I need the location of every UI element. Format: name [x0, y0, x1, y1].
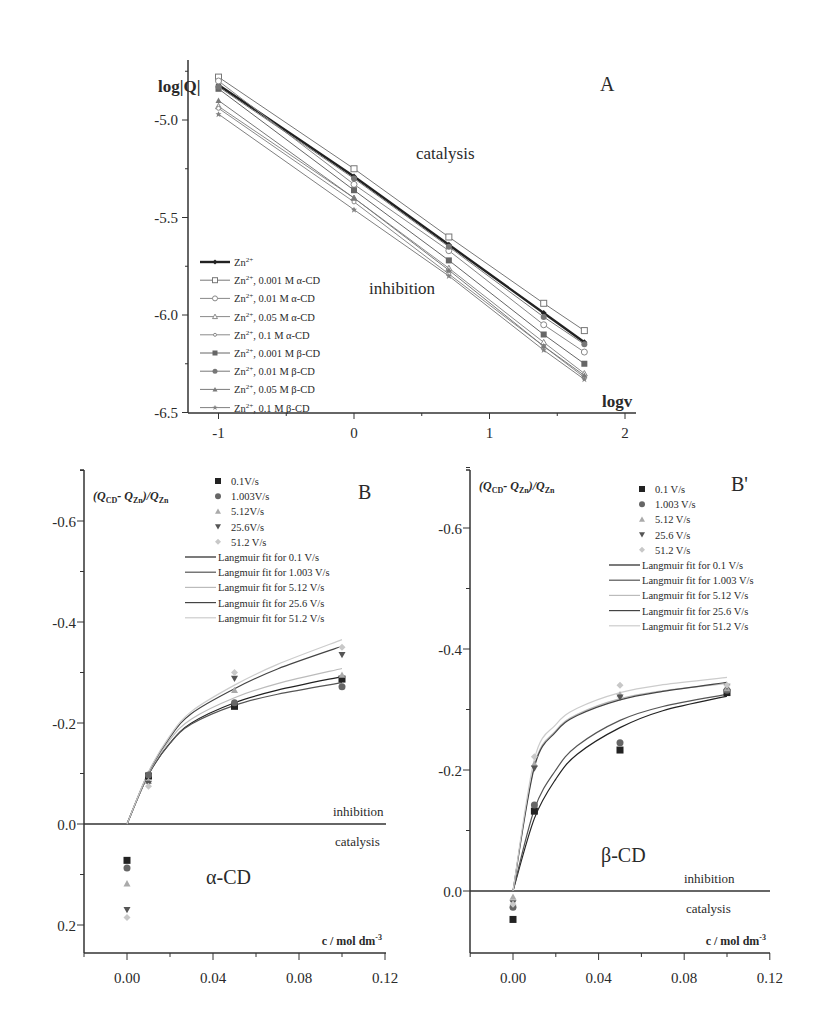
annotation-inhibition: inhibition — [684, 871, 735, 886]
chart-b-alpha-cd: -0.6-0.4-0.20.00.20.000.040.080.120.1V/s… — [52, 470, 398, 986]
panel-label: B' — [731, 473, 748, 495]
triangle-up-marker-icon — [510, 894, 517, 900]
legend-label: 0.1 V/s — [655, 484, 685, 495]
square-marker-icon — [124, 857, 131, 864]
filled-square-marker-icon — [351, 187, 357, 193]
legend-label: Langmuir fit for 1.003 V/s — [642, 575, 754, 586]
y-axis-title: (QCD- QZn)/QZn — [93, 489, 169, 505]
annotation-catalysis: catalysis — [686, 901, 731, 916]
filled-square-marker-icon — [213, 351, 218, 356]
open-square-marker-icon — [446, 234, 452, 240]
legend-label: 51.2 V/s — [231, 537, 266, 548]
open-triangle-marker-icon — [213, 314, 218, 319]
y-tick-label: -0.6 — [52, 514, 76, 530]
x-tick-label-a: 2 — [621, 425, 629, 441]
x-tick-label: 0.00 — [500, 970, 526, 986]
triangle-up-marker-icon — [124, 880, 131, 886]
legend-label: 1.003 V/s — [655, 499, 696, 510]
circle-marker-icon — [215, 493, 221, 499]
y-tick-label-a: -5.0 — [154, 112, 178, 128]
x-axis-title: c / mol dm-3 — [706, 933, 766, 948]
y-tick-label: -0.4 — [438, 642, 462, 658]
legend-label: Langmuir fit for 25.6 V/s — [218, 598, 324, 609]
langmuir-fit-curve — [127, 640, 342, 824]
legend-label-a: Zn2+, 0.1 M β-CD — [234, 402, 310, 414]
square-marker-icon — [531, 808, 538, 815]
y-tick-label: 0.0 — [443, 884, 462, 900]
legend-label-a: Zn2+, 0.05 M β-CD — [234, 383, 315, 395]
filled-square-marker-icon — [581, 361, 587, 367]
filled-triangle-marker-icon — [216, 98, 222, 103]
legend-label-a: Zn2+ — [234, 256, 253, 268]
open-circle-small-marker-icon — [214, 333, 217, 336]
annotation-catalysis: catalysis — [335, 834, 380, 849]
legend-label-a: Zn2+, 0.001 M α-CD — [234, 274, 321, 286]
triangle-down-marker-icon — [639, 532, 645, 537]
annotation-inhibition-a: inhibition — [369, 279, 436, 298]
legend-label-a: Zn2+, 0.001 M β-CD — [234, 347, 320, 359]
x-axis-title: c / mol dm-3 — [322, 933, 382, 948]
circle-marker-icon — [339, 683, 346, 690]
y-tick-label-a: -5.5 — [154, 210, 178, 226]
legend-label: Langmuir fit for 1.003 V/s — [218, 567, 330, 578]
y-tick-label-a: -6.5 — [154, 405, 178, 421]
subtitle-cd-type: α-CD — [206, 866, 251, 888]
x-tick-label: 0.00 — [114, 970, 140, 986]
legend-label: Langmuir fit for 51.2 V/s — [642, 621, 748, 632]
circle-marker-icon — [231, 699, 238, 706]
legend-label: Langmuir fit for 51.2 V/s — [218, 613, 324, 624]
triangle-down-marker-icon — [215, 524, 221, 529]
legend-label: 25.6 V/s — [655, 530, 690, 541]
triangle-up-marker-icon — [215, 508, 221, 513]
open-square-marker-icon — [541, 300, 547, 306]
filled-circle-marker-icon — [213, 369, 218, 374]
legend-label: Langmuir fit for 0.1 V/s — [218, 552, 319, 563]
open-circle-marker-icon — [216, 78, 222, 84]
square-marker-icon — [510, 916, 517, 923]
legend-label: 25.6V/s — [231, 522, 264, 533]
x-tick-label-a: -1 — [212, 425, 225, 441]
triangle-up-marker-icon — [339, 672, 346, 678]
chart-a: -5.0-5.5-6.0-6.5-1012Zn2+Zn2+, 0.001 M α… — [154, 60, 636, 441]
y-tick-label: 0.2 — [57, 918, 76, 934]
diamond-marker-icon — [617, 682, 624, 689]
panel-label: B — [358, 481, 371, 503]
x-tick-label: 0.12 — [757, 970, 783, 986]
square-marker-icon — [617, 747, 624, 754]
filled-circle-marker-icon — [581, 341, 587, 347]
circle-marker-icon — [124, 864, 131, 871]
legend-label-a: Zn2+, 0.1 M α-CD — [234, 329, 310, 341]
figure-canvas: -5.0-5.5-6.0-6.5-1012Zn2+Zn2+, 0.001 M α… — [0, 0, 822, 1027]
legend-label: 1.003V/s — [231, 491, 269, 502]
legend-label: 51.2 V/s — [655, 545, 690, 556]
circle-marker-icon — [145, 772, 152, 779]
x-axis-title-a: logv — [602, 392, 633, 411]
y-tick-label: 0.0 — [57, 817, 76, 833]
langmuir-fit-curve — [127, 677, 342, 824]
diamond-marker-icon — [215, 539, 221, 545]
filled-circle-marker-icon — [216, 84, 222, 90]
legend-label: 5.12V/s — [231, 506, 264, 517]
circle-marker-icon — [531, 802, 538, 809]
x-tick-label: 0.04 — [585, 970, 612, 986]
open-circle-marker-icon — [213, 296, 218, 301]
diamond-marker-icon — [231, 669, 238, 676]
legend-label: Langmuir fit for 25.6 V/s — [642, 606, 748, 617]
open-circle-marker-icon — [541, 322, 547, 328]
diamond-marker-icon — [124, 914, 131, 921]
filled-star-marker-icon — [216, 111, 222, 117]
y-tick-label: -0.2 — [52, 716, 76, 732]
open-circle-marker-icon — [581, 349, 587, 355]
legend-label: 0.1V/s — [231, 476, 259, 487]
legend-label: Langmuir fit for 5.12 V/s — [218, 582, 324, 593]
open-square-marker-icon — [213, 278, 218, 283]
chart-b-prime-beta-cd: -0.6-0.4-0.20.00.000.040.080.120.1 V/s1.… — [438, 468, 783, 987]
annotation-catalysis-a: catalysis — [416, 144, 475, 163]
open-circle-marker-icon — [351, 181, 357, 187]
x-tick-label: 0.08 — [671, 970, 697, 986]
y-tick-label: -0.4 — [52, 615, 76, 631]
y-tick-label: -0.6 — [438, 521, 462, 537]
subtitle-cd-type: β-CD — [601, 844, 646, 867]
filled-square-marker-icon — [541, 332, 547, 338]
y-tick-label-a: -6.0 — [154, 307, 178, 323]
